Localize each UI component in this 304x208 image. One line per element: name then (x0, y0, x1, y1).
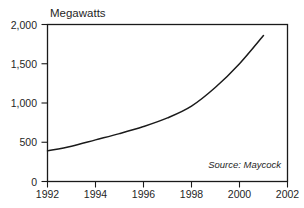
y-tick-label-2000: 2,000 (11, 19, 37, 31)
x-tick-label-1994: 1994 (84, 188, 108, 200)
x-tick-label-1992: 1992 (36, 188, 60, 200)
y-tick-label-0: 0 (31, 176, 37, 188)
data-series-megawatts (48, 35, 264, 150)
line-chart: Megawatts 0 500 1,000 1,500 2,000 (0, 0, 304, 208)
chart-figure: Megawatts 0 500 1,000 1,500 2,000 (0, 0, 304, 208)
y-tick-labels: 0 500 1,000 1,500 2,000 (11, 19, 37, 188)
y-tick-label-500: 500 (19, 136, 37, 148)
x-tick-marks (48, 182, 288, 188)
x-tick-label-2002: 2002 (276, 188, 300, 200)
x-tick-labels: 1992 1994 1996 1998 2000 2002 (36, 188, 300, 200)
x-tick-label-1996: 1996 (132, 188, 156, 200)
y-tick-label-1500: 1,500 (11, 58, 37, 70)
y-axis-title: Megawatts (50, 7, 106, 19)
y-tick-label-1000: 1,000 (11, 97, 37, 109)
y-tick-marks (42, 25, 48, 182)
source-annotation: Source: Maycock (208, 159, 282, 170)
x-tick-label-2000: 2000 (228, 188, 252, 200)
x-tick-label-1998: 1998 (180, 188, 204, 200)
plot-frame (48, 25, 288, 182)
